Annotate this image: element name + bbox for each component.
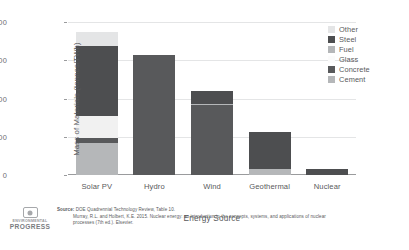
- legend-label: Other: [339, 25, 358, 34]
- x-tick-label-geothermal: Geothermal: [241, 182, 299, 191]
- y-tick-mark: [64, 175, 67, 176]
- source-text-1: DOE Quadrennial Technology Review, Table…: [76, 207, 175, 212]
- y-tick-mark: [64, 137, 67, 138]
- logo-line2: PROGRESS: [8, 223, 52, 230]
- y-tick-label: 13500: [0, 56, 7, 65]
- bar-segment-steel[interactable]: [306, 169, 348, 175]
- y-tick-label: 18000: [0, 18, 7, 27]
- bar-wind[interactable]: [191, 91, 233, 175]
- bar-geothermal[interactable]: [249, 132, 291, 175]
- bar-segment-other[interactable]: [76, 32, 118, 46]
- legend-label: Concrete: [339, 65, 370, 74]
- bar-segment-steel[interactable]: [249, 132, 291, 169]
- bar-segment-fuel[interactable]: [191, 104, 233, 105]
- legend-item-fuel[interactable]: Fuel: [328, 45, 406, 54]
- bar-segment-concrete[interactable]: [191, 105, 233, 175]
- legend: OtherSteelFuelGlassConcreteCement: [328, 25, 406, 85]
- plot-area: Mass of Materials (tonnes/TWh) 045009000…: [68, 22, 356, 175]
- bar-hydro[interactable]: [133, 55, 175, 175]
- bar-segment-cement[interactable]: [76, 143, 118, 175]
- bar-segment-steel[interactable]: [76, 46, 118, 117]
- x-tick-label-nuclear: Nuclear: [298, 182, 356, 191]
- bar-segment-steel[interactable]: [191, 91, 233, 104]
- y-tick-mark: [64, 99, 67, 100]
- source-label: Source:: [57, 207, 74, 212]
- legend-swatch-icon: [328, 66, 335, 73]
- bar-segment-concrete[interactable]: [76, 138, 118, 142]
- y-axis-title: Mass of Materials (tonnes/TWh): [72, 42, 81, 156]
- bar-nuclear[interactable]: [306, 169, 348, 175]
- legend-label: Glass: [339, 55, 358, 64]
- source-line-3: processes (7th ed.). Elsevier.: [57, 220, 403, 227]
- gridline: [68, 22, 356, 23]
- footer: ENVIRONMENTAL PROGRESS Source: DOE Quadr…: [0, 203, 409, 250]
- legend-item-glass[interactable]: Glass: [328, 55, 406, 64]
- y-tick-label: 0: [3, 171, 7, 180]
- bar-segment-cement[interactable]: [249, 169, 291, 175]
- bar-solar-pv[interactable]: [76, 32, 118, 175]
- logo-mark-icon: [23, 207, 38, 218]
- legend-swatch-icon: [328, 36, 335, 43]
- y-tick-mark: [64, 22, 67, 23]
- bar-segment-concrete[interactable]: [133, 55, 175, 175]
- legend-item-steel[interactable]: Steel: [328, 35, 406, 44]
- legend-label: Cement: [339, 75, 365, 84]
- y-tick-label: 9000: [0, 94, 7, 103]
- environmental-progress-logo: ENVIRONMENTAL PROGRESS: [8, 207, 52, 230]
- legend-swatch-icon: [328, 76, 335, 83]
- legend-swatch-icon: [328, 26, 335, 33]
- legend-swatch-icon: [328, 56, 335, 63]
- legend-item-other[interactable]: Other: [328, 25, 406, 34]
- legend-item-cement[interactable]: Cement: [328, 75, 406, 84]
- x-tick-label-wind: Wind: [183, 182, 241, 191]
- legend-swatch-icon: [328, 46, 335, 53]
- x-tick-label-solar-pv: Solar PV: [68, 182, 126, 191]
- source-line-2: Murray, R.L. and Holbert, K.E. 2015. Nuc…: [57, 214, 403, 221]
- legend-item-concrete[interactable]: Concrete: [328, 65, 406, 74]
- source-line-1: Source: DOE Quadrennial Technology Revie…: [57, 207, 403, 214]
- source-citation: Source: DOE Quadrennial Technology Revie…: [57, 207, 403, 227]
- legend-label: Fuel: [339, 45, 354, 54]
- y-tick-label: 4500: [0, 132, 7, 141]
- legend-label: Steel: [339, 35, 356, 44]
- bar-segment-glass[interactable]: [76, 116, 118, 138]
- x-tick-label-hydro: Hydro: [126, 182, 184, 191]
- y-tick-mark: [64, 60, 67, 61]
- chart-figure: Mass of Materials (tonnes/TWh) 045009000…: [0, 0, 409, 250]
